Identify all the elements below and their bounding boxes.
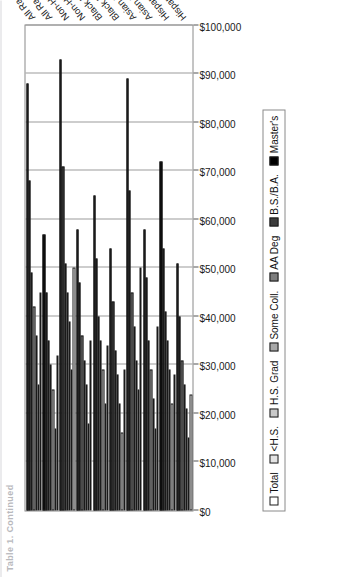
legend-item-h-s-grad[interactable]: H.S. Grad <box>269 360 279 416</box>
bar-all-races-female-master-s <box>42 234 44 510</box>
gridline <box>25 218 192 219</box>
axis-tick <box>193 315 198 316</box>
axis-tick <box>193 412 198 413</box>
legend-item-total[interactable]: Total <box>269 472 279 505</box>
gridline <box>25 121 192 122</box>
bar-hispanic-male-any-race--master-s <box>159 161 161 510</box>
axis-tick <box>193 170 198 171</box>
legend-swatch <box>269 156 278 165</box>
legend-item-aa-deg[interactable]: AA Deg <box>269 235 279 281</box>
axis-tick-label: $60,000 <box>199 215 235 226</box>
axis-tick <box>193 509 198 510</box>
axis-tick-label: $20,000 <box>199 409 235 420</box>
gridline <box>25 315 192 316</box>
legend-item-b-s-b-a-[interactable]: B.S./B.A. <box>269 174 279 227</box>
axis-tick-label: $80,000 <box>199 118 235 129</box>
legend-item-some-coll-[interactable]: Some Coll. <box>269 290 279 351</box>
gridline <box>25 170 192 171</box>
legend-swatch <box>269 454 278 463</box>
axis-tick-label: $70,000 <box>199 167 235 178</box>
legend-label: AA Deg <box>269 235 279 269</box>
chart-legend: Total<H.S.H.S. GradSome Coll.AA DegB.S./… <box>262 109 285 511</box>
legend-label: <H.S. <box>269 426 279 451</box>
legend-label: Some Coll. <box>269 290 279 339</box>
axis-tick-label: $90,000 <box>199 70 235 81</box>
page-edge-line <box>0 0 1 577</box>
axis-tick <box>193 218 198 219</box>
bar-asian-male-master-s <box>126 78 128 510</box>
legend-label: B.S./B.A. <box>269 174 279 215</box>
gridline <box>25 24 192 25</box>
axis-tick <box>193 461 198 462</box>
bar-non-hispanic-white-female-master-s <box>76 229 78 510</box>
axis-tick <box>193 24 198 25</box>
legend-label: H.S. Grad <box>269 360 279 404</box>
legend-item--h-s-[interactable]: <H.S. <box>269 426 279 463</box>
bar-hispanic-female-any-race--master-s <box>176 263 178 510</box>
axis-tick-label: $0 <box>199 506 210 517</box>
figure-title: Table 1. Continued <box>4 484 14 571</box>
bar-black-male-master-s <box>93 195 95 510</box>
legend-swatch <box>269 272 278 281</box>
legend-swatch <box>269 496 278 505</box>
plot-area <box>24 24 193 511</box>
gridline <box>25 267 192 268</box>
figure-canvas: Table 1. Continued $0$10,000$20,000$30,0… <box>0 0 343 577</box>
chart-screenshot: Table 1. Continued $0$10,000$20,000$30,0… <box>0 0 343 577</box>
axis-tick-label: $50,000 <box>199 264 235 275</box>
legend-swatch <box>269 217 278 226</box>
bar-all-races-male-master-s <box>26 83 28 510</box>
axis-tick-label: $40,000 <box>199 312 235 323</box>
bar-non-hispanic-white-male-master-s <box>59 59 61 510</box>
axis-tick <box>193 364 198 365</box>
legend-label: Master's <box>269 115 279 152</box>
axis-tick <box>193 73 198 74</box>
legend-label: Total <box>269 472 279 493</box>
axis-tick-label: $30,000 <box>199 361 235 372</box>
axis-tick <box>193 267 198 268</box>
legend-swatch <box>269 342 278 351</box>
legend-swatch <box>269 408 278 417</box>
bar-asian-female-master-s <box>143 229 145 510</box>
axis-tick-label: $10,000 <box>199 458 235 469</box>
axis-tick <box>193 121 198 122</box>
legend-item-master-s[interactable]: Master's <box>269 115 279 164</box>
rotated-figure: Table 1. Continued $0$10,000$20,000$30,0… <box>0 0 343 577</box>
gridline <box>25 73 192 74</box>
axis-tick-label: $100,000 <box>199 21 241 32</box>
bar-black-female-master-s <box>109 248 111 510</box>
